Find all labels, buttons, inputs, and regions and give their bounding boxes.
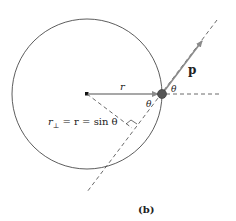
- particle: [158, 90, 167, 99]
- right-angle-marker: [126, 120, 137, 124]
- theta-inner-label: θ: [146, 99, 152, 109]
- radius-label: r: [120, 81, 126, 92]
- r-perp-equation: r⊥ = r = sin θ: [48, 116, 118, 130]
- momentum-label: p: [188, 63, 196, 77]
- theta-outer-label: θ: [171, 84, 177, 94]
- angular-momentum-diagram: r p θ θ r⊥ = r = sin θ (b): [0, 0, 236, 221]
- figure-caption: (b): [138, 204, 154, 215]
